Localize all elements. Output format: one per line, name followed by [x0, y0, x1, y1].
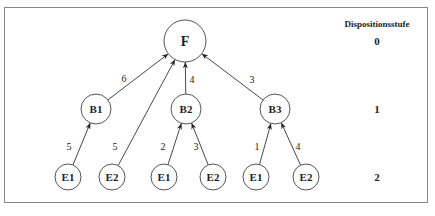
level-2-label: 2 [374, 171, 380, 183]
edge-quantity-label: 4 [190, 74, 195, 85]
edge-quantity-label: 5 [67, 141, 72, 152]
edge-quantity-label: 6 [122, 73, 127, 84]
edge-quantity-label: 3 [194, 141, 199, 152]
node-B1: B1 [81, 94, 111, 124]
edge-quantity-label: 3 [250, 74, 255, 85]
node-B3: B3 [260, 94, 290, 124]
node-B2: B2 [171, 94, 201, 124]
node-E1a: E1 [55, 164, 81, 190]
node-label: E1 [250, 171, 263, 183]
node-label: E2 [207, 171, 220, 183]
node-label: F [181, 34, 190, 49]
node-label: B2 [180, 103, 193, 115]
level-0-label: 0 [374, 35, 380, 47]
node-E2c: E2 [293, 164, 319, 190]
node-label: E2 [106, 171, 119, 183]
node-label: B3 [269, 103, 282, 115]
node-label: E2 [300, 171, 313, 183]
bom-diagram: 654352314 FB1B2B3E1E2E1E2E1E2 Dispositio… [0, 0, 435, 216]
node-label: E1 [62, 171, 75, 183]
edge-quantity-label: 4 [296, 141, 301, 152]
edge-quantity-label: 1 [255, 141, 260, 152]
node-F: F [164, 20, 206, 62]
node-E1b: E1 [151, 164, 177, 190]
edge-quantity-label: 5 [113, 141, 118, 152]
edge-quantity-label: 2 [161, 141, 166, 152]
node-E2a: E2 [99, 164, 125, 190]
node-label: B1 [90, 103, 103, 115]
legend-title: Dispositionsstufe [344, 19, 409, 29]
node-E2b: E2 [200, 164, 226, 190]
node-label: E1 [158, 171, 171, 183]
level-1-label: 1 [374, 103, 380, 115]
node-E1c: E1 [243, 164, 269, 190]
